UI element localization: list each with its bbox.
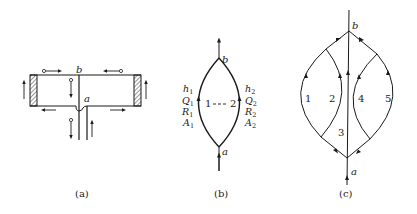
branch-5-arrow-icon: [386, 70, 390, 75]
caption-b: (b): [214, 188, 228, 199]
branch-2-labels: h2 Q2 R2 A2: [244, 83, 257, 130]
branch-2-arrow-icon: [238, 96, 242, 101]
arrow-icon: [336, 38, 341, 42]
branch-4: [353, 54, 377, 139]
notch: [76, 106, 87, 111]
figure-canvas: b a (a) 1 2 h1 Q1 R1 A1 h2 Q2 R2: [0, 0, 417, 214]
left-end-cap: [30, 75, 37, 106]
branch-3-arrow-icon: [346, 70, 350, 75]
arrow-icon: [333, 149, 338, 154]
right-end-cap: [134, 75, 141, 106]
branch-1-labels: h1 Q1 R1 A1: [181, 83, 194, 130]
right-lower-segment: [347, 139, 370, 158]
branch-2-arrow-icon: [338, 73, 342, 78]
branch-label-3: 3: [338, 127, 344, 138]
branch-1-arrow-icon: [197, 96, 201, 101]
particle-icon: [42, 69, 45, 72]
branch-1-num: 1: [205, 98, 211, 109]
branch-label-2: 2: [329, 93, 335, 104]
node-label-b: b: [76, 64, 82, 75]
branch-label-5: 5: [385, 93, 391, 104]
branch-label-4: 4: [358, 93, 364, 104]
particle-icon: [69, 118, 72, 121]
caption-c: (c): [339, 188, 353, 199]
panel-b: 1 2 h1 Q1 R1 A1 h2 Q2 R2 A2 b a (b): [181, 40, 257, 199]
node-label-a: a: [84, 93, 90, 104]
left-lower-segment: [321, 137, 347, 158]
node-label-b: b: [352, 20, 358, 31]
particle-icon: [119, 69, 122, 72]
branch-label-1: 1: [305, 93, 311, 104]
caption-a: (a): [75, 188, 89, 199]
node-label-b: b: [222, 54, 228, 65]
branch-3: [347, 10, 349, 185]
inflow-arrow-icon: [345, 175, 349, 180]
particle-icon: [69, 78, 72, 81]
node-label-a: a: [222, 146, 228, 157]
node-label-a: a: [351, 166, 357, 177]
panel-c: 1 2 3 4 5 b a (c): [301, 10, 393, 199]
panel-a: b a (a): [24, 64, 146, 199]
right-upper-segment: [349, 31, 377, 54]
branch-2-num: 2: [230, 98, 236, 109]
